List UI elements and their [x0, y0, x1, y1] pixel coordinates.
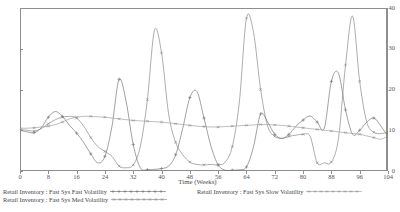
- x-tick-mark: [218, 171, 219, 174]
- x-tick-mark: [331, 171, 332, 174]
- plot-area: 010203040 081624324048566472808896104 Ti…: [0, 0, 395, 186]
- legend-entry[interactable]: Retail Inventory : Fast Sys Fast Volatil…: [3, 187, 166, 195]
- x-tick-mark: [190, 171, 191, 174]
- y-tick-mark: [20, 49, 23, 50]
- series-line: [20, 14, 388, 168]
- x-tick-mark: [162, 171, 163, 174]
- series-canvas: [20, 8, 388, 171]
- x-tick-mark: [246, 171, 247, 174]
- series-line: [20, 116, 388, 139]
- y-tick-label: 30: [377, 45, 395, 52]
- x-tick-mark: [388, 171, 389, 174]
- y-tick-mark: [20, 90, 23, 91]
- x-axis-title: Time (Weeks): [0, 178, 395, 186]
- x-tick-mark: [105, 171, 106, 174]
- x-tick-mark: [360, 171, 361, 174]
- legend-line-sample: [111, 196, 167, 203]
- legend-entry[interactable]: Retail Inventory : Fast Sys Med Volatili…: [3, 195, 167, 203]
- x-tick-mark: [303, 171, 304, 174]
- y-tick-mark: [20, 130, 23, 131]
- x-tick-mark: [133, 171, 134, 174]
- x-tick-mark: [20, 171, 21, 174]
- series-1: [20, 14, 388, 168]
- x-tick-mark: [275, 171, 276, 174]
- legend-line-sample: [306, 188, 362, 195]
- legend-label: Retail Inventory : Fast Sys Med Volatili…: [3, 196, 108, 203]
- y-tick-label: 40: [377, 5, 395, 12]
- legend-line-sample: [110, 188, 166, 195]
- series-line: [20, 71, 388, 170]
- x-tick-mark: [48, 171, 49, 174]
- legend-entry[interactable]: Retail Inventory : Fast Sys Slow Volatil…: [197, 187, 362, 195]
- y-tick-mark: [20, 8, 23, 9]
- series-0: [20, 71, 388, 171]
- x-tick-mark: [77, 171, 78, 174]
- y-tick-label: 10: [377, 127, 395, 134]
- chart-legend: Retail Inventory : Fast Sys Fast Volatil…: [0, 186, 395, 212]
- legend-label: Retail Inventory : Fast Sys Slow Volatil…: [197, 188, 303, 195]
- legend-label: Retail Inventory : Fast Sys Fast Volatil…: [3, 188, 107, 195]
- y-tick-label: 20: [377, 86, 395, 93]
